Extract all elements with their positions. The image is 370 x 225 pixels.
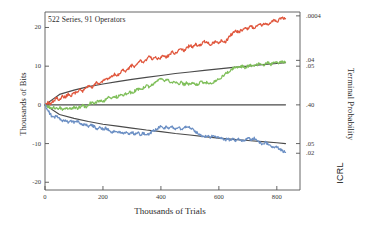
tick-label: .0004 [306, 12, 332, 19]
corner-watermark: ICRL [335, 149, 345, 197]
tick-label: .40 [306, 101, 332, 108]
series-annotation: 522 Series, 91 Operators [48, 15, 125, 24]
tick-label: 400 [148, 193, 174, 200]
tick-label: 800 [264, 193, 290, 200]
tick-label: .02 [306, 149, 332, 156]
tick-label: 10 [19, 62, 41, 69]
tick-label: 600 [206, 193, 232, 200]
tick-label: 0 [32, 193, 58, 200]
y-axis-title-right: Terminal Probability [346, 39, 356, 169]
tick-label: 20 [19, 23, 41, 30]
tick-label: .05 [306, 140, 332, 147]
tick-label: 0 [19, 101, 41, 108]
tick-label: -20 [19, 178, 41, 185]
tick-label: -10 [19, 140, 41, 147]
tick-label: 200 [90, 193, 116, 200]
tick-label: .05 [306, 62, 332, 69]
cumulative-deviation-chart [0, 0, 370, 225]
x-axis-title: Thousands of Trials [35, 206, 305, 216]
